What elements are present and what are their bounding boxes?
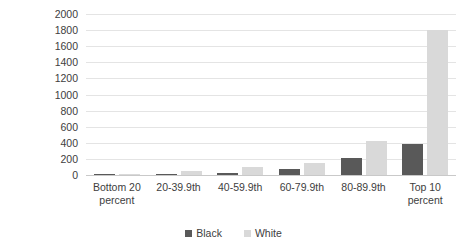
y-axis-tick: 800	[44, 105, 78, 116]
y-axis-tick: 1800	[44, 25, 78, 36]
bar-black[interactable]	[279, 169, 300, 175]
y-axis-tick: 200	[44, 154, 78, 165]
y-axis-tick: 2000	[44, 9, 78, 20]
bar-black[interactable]	[94, 174, 115, 175]
bar-black[interactable]	[402, 144, 423, 175]
legend-item-white[interactable]: White	[244, 228, 282, 239]
bar-white[interactable]	[304, 163, 325, 175]
bar-white[interactable]	[242, 167, 263, 175]
y-axis-tick: 600	[44, 121, 78, 132]
x-axis-label: 20-39.9th	[148, 181, 210, 215]
bar-group	[333, 14, 395, 175]
bar-chart: Networth in thousands of dollars (2016) …	[0, 0, 467, 249]
x-axis-label: 80-89.9th	[333, 181, 395, 215]
bar-white[interactable]	[366, 141, 387, 175]
y-axis-tick: 400	[44, 138, 78, 149]
bar-white[interactable]	[427, 30, 448, 175]
legend-label: Black	[196, 228, 222, 239]
bar-group	[209, 14, 271, 175]
legend-swatch-icon	[185, 230, 192, 237]
bar-black[interactable]	[341, 158, 362, 175]
x-axis-label: 60-79.9th	[271, 181, 333, 215]
bar-group	[271, 14, 333, 175]
chart-legend: BlackWhite	[0, 228, 467, 239]
legend-item-black[interactable]: Black	[185, 228, 222, 239]
y-axis-tick: 1600	[44, 41, 78, 52]
bar-white[interactable]	[181, 171, 202, 175]
plot-wrapper: 0200400600800100012001400160018002000	[46, 14, 456, 179]
y-axis-tick: 1000	[44, 89, 78, 100]
legend-swatch-icon	[244, 230, 251, 237]
x-axis-label: Top 10 percent	[394, 181, 456, 215]
y-axis-tick-labels: 0200400600800100012001400160018002000	[46, 14, 82, 179]
x-axis-label: 40-59.9th	[209, 181, 271, 215]
legend-label: White	[255, 228, 282, 239]
y-axis-tick: 0	[44, 170, 78, 181]
bar-white[interactable]	[119, 174, 140, 175]
bar-black[interactable]	[217, 173, 238, 175]
bar-black[interactable]	[156, 174, 177, 175]
plot-area	[86, 14, 456, 176]
y-axis-tick: 1400	[44, 57, 78, 68]
bar-group	[86, 14, 148, 175]
bars-layer	[86, 14, 456, 175]
bar-group	[148, 14, 210, 175]
x-axis-category-labels: Bottom 20 percent20-39.9th40-59.9th60-79…	[86, 181, 456, 215]
x-axis-label: Bottom 20 percent	[86, 181, 148, 215]
y-axis-tick: 1200	[44, 73, 78, 84]
bar-group	[394, 14, 456, 175]
